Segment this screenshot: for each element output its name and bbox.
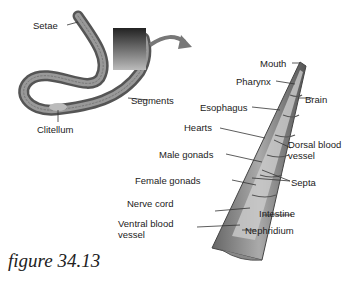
label-clitellum: Clitellum bbox=[37, 124, 73, 135]
label-nephridium: Nephridium bbox=[245, 225, 294, 236]
label-female-gonads: Female gonads bbox=[135, 175, 200, 186]
label-esophagus: Esophagus bbox=[200, 102, 248, 113]
label-dorsal-blood-vessel: Dorsal blood vessel bbox=[288, 139, 341, 161]
label-intestine: Intestine bbox=[259, 208, 295, 219]
label-ventral-blood-vessel: Ventral blood vessel bbox=[118, 218, 173, 240]
label-pharynx: Pharynx bbox=[236, 76, 271, 87]
label-nerve-cord: Nerve cord bbox=[127, 198, 173, 209]
label-setae: Setae bbox=[33, 20, 58, 31]
label-segments: Segments bbox=[131, 95, 174, 106]
figure-caption: figure 34.13 bbox=[8, 250, 100, 272]
label-septa: Septa bbox=[291, 177, 316, 188]
label-hearts: Hearts bbox=[184, 122, 212, 133]
label-male-gonads: Male gonads bbox=[159, 149, 213, 160]
zoom-region-box bbox=[113, 28, 146, 70]
label-mouth: Mouth bbox=[260, 58, 286, 69]
label-brain: Brain bbox=[305, 94, 327, 105]
